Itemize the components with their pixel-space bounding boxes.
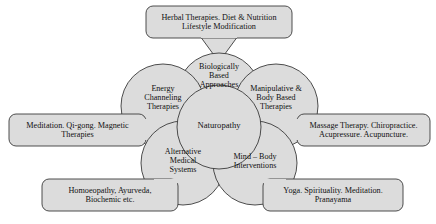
callout-box-alternative-medical[interactable] bbox=[42, 179, 178, 211]
center-circle-naturopathy[interactable] bbox=[177, 85, 261, 169]
seam-patch-right bbox=[295, 119, 300, 140]
seam-patch-bottom-left bbox=[154, 179, 179, 183]
callout-box-mind-body[interactable] bbox=[263, 179, 403, 211]
seam-patch-top bbox=[201, 34, 237, 38]
callout-box-energy-channeling[interactable] bbox=[9, 114, 146, 146]
diagram-canvas bbox=[0, 0, 436, 224]
callout-box-biologically-based[interactable] bbox=[146, 6, 292, 38]
callout-box-manipulative[interactable] bbox=[297, 114, 430, 146]
seam-patch-left bbox=[142, 119, 147, 140]
naturopathy-diagram: Naturopathy Biologically Based Approache… bbox=[0, 0, 436, 224]
seam-patch-bottom-right bbox=[261, 179, 286, 183]
